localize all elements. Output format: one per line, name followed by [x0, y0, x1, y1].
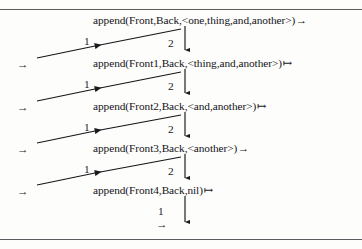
entry-arrow-icon: →: [17, 186, 29, 197]
goal-text: append(Front1,Back,<thing,and,another>): [93, 57, 282, 69]
final-exit-arrow-icon: →: [156, 219, 168, 230]
figure-canvas: append(Front,Back,<one,thing,and,another…: [0, 0, 362, 249]
clause-label-1: 1: [84, 164, 90, 175]
clause-label-2: 2: [168, 124, 174, 135]
goal-text: append(Front4,Back,nil): [93, 184, 203, 196]
goal-row: append(Front,Back,<one,thing,and,another…: [93, 14, 307, 27]
arrow-layer: [0, 0, 362, 249]
goal-out-arrow-icon: →: [237, 142, 249, 154]
return-arrow-tail: [37, 46, 95, 58]
goal-text: append(Front3,Back,<another>): [93, 142, 237, 154]
clause-label-1: 1: [84, 79, 90, 90]
goal-text: append(Front2,Back,<and,another>): [93, 100, 256, 112]
entry-arrow-icon: →: [17, 102, 29, 113]
clause-label-2: 2: [168, 81, 174, 92]
goal-row: append(Front4,Back,nil)↦: [93, 184, 213, 197]
return-arrow-tail: [37, 89, 95, 101]
goal-row: append(Front2,Back,<and,another>)↦: [93, 100, 266, 113]
final-clause-label-1: 1: [158, 206, 164, 217]
clause-label-2: 2: [168, 38, 174, 49]
goal-row: append(Front1,Back,<thing,and,another>)↦: [93, 57, 292, 70]
clause-label-1: 1: [84, 36, 90, 47]
entry-arrow-icon: →: [17, 144, 29, 155]
goal-row: append(Front3,Back,<another>)→: [93, 142, 249, 155]
entry-arrow-icon: →: [17, 59, 29, 70]
goal-out-arrow-icon: ↦: [256, 100, 266, 112]
goal-out-arrow-icon: →: [295, 14, 307, 26]
goal-text: append(Front,Back,<one,thing,and,another…: [93, 14, 295, 26]
goal-out-arrow-icon: ↦: [203, 184, 213, 196]
clause-label-1: 1: [84, 122, 90, 133]
goal-out-arrow-icon: ↦: [282, 57, 292, 69]
clause-label-2: 2: [168, 166, 174, 177]
